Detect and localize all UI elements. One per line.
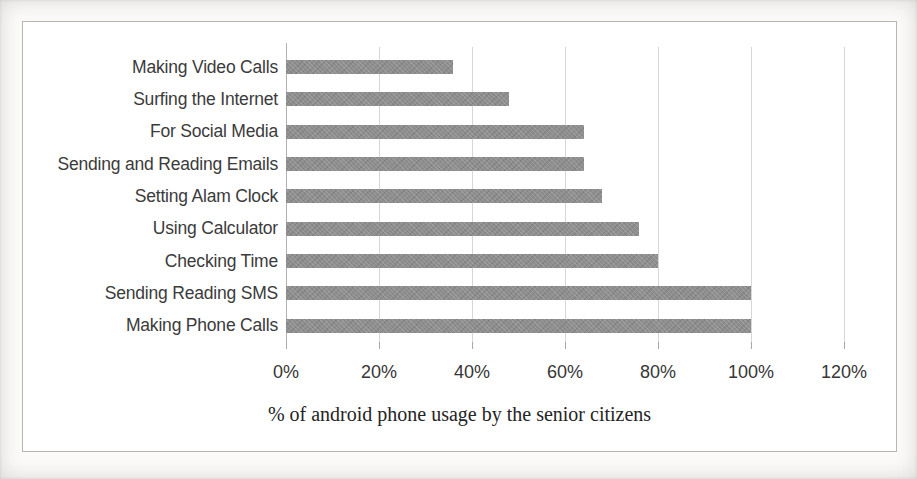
x-tick-label: 40%	[454, 360, 490, 384]
axis-tickmark	[751, 342, 752, 349]
category-label: Making Video Calls	[23, 51, 278, 83]
bar-row	[286, 245, 844, 277]
value-axis-tick-labels: 0%20%40%60%80%100%120%	[286, 360, 844, 384]
bar	[286, 222, 639, 236]
axis-tickmark	[286, 342, 287, 349]
bar-row	[286, 213, 844, 245]
scanned-page: Making Video CallsSurfing the InternetFo…	[0, 0, 917, 479]
category-label: Sending Reading SMS	[23, 277, 278, 309]
bar-row	[286, 148, 844, 180]
gridline	[844, 47, 845, 342]
category-label: Sending and Reading Emails	[23, 148, 278, 180]
bar	[286, 286, 751, 300]
category-label: Surfing the Internet	[23, 83, 278, 115]
axis-tickmark	[844, 342, 845, 349]
plot-area	[286, 51, 844, 342]
bar	[286, 125, 584, 139]
category-label: For Social Media	[23, 116, 278, 148]
bar	[286, 92, 509, 106]
category-label: Setting Alam Clock	[23, 180, 278, 212]
x-axis-title: % of android phone usage by the senior c…	[23, 403, 896, 426]
x-tick-label: 0%	[273, 360, 299, 384]
category-axis: Making Video CallsSurfing the InternetFo…	[23, 51, 278, 342]
axis-tickmark	[379, 342, 380, 349]
x-tick-label: 80%	[640, 360, 676, 384]
bar-row	[286, 277, 844, 309]
category-label: Using Calculator	[23, 213, 278, 245]
bar	[286, 60, 453, 74]
axis-tickmark	[565, 342, 566, 349]
bar	[286, 319, 751, 333]
x-tick-label: 100%	[728, 360, 774, 384]
bar	[286, 189, 602, 203]
x-tick-label: 120%	[821, 360, 867, 384]
bar-row	[286, 180, 844, 212]
x-tick-label: 60%	[547, 360, 583, 384]
bar-row	[286, 51, 844, 83]
axis-tickmark	[472, 342, 473, 349]
bar-row	[286, 83, 844, 115]
bar	[286, 157, 584, 171]
bar-row	[286, 310, 844, 342]
bar	[286, 254, 658, 268]
x-tick-label: 20%	[361, 360, 397, 384]
category-label: Checking Time	[23, 245, 278, 277]
chart-frame: Making Video CallsSurfing the InternetFo…	[22, 21, 897, 452]
axis-tickmark	[658, 342, 659, 349]
category-label: Making Phone Calls	[23, 310, 278, 342]
bar-row	[286, 116, 844, 148]
